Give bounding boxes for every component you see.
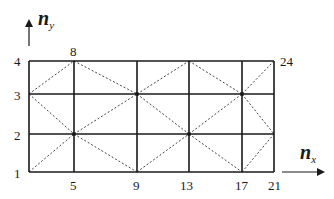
diagonal-line xyxy=(242,94,274,134)
node-label: 13 xyxy=(180,179,193,192)
diagonal-line xyxy=(29,94,74,134)
node-label: 24 xyxy=(280,55,293,68)
diagonal-line xyxy=(189,134,242,172)
diagonal-line xyxy=(137,94,189,134)
diagonal-line xyxy=(137,134,189,172)
node-label: 3 xyxy=(14,89,21,102)
diagonal-line xyxy=(189,94,242,134)
y-axis-arrowhead-icon xyxy=(25,19,33,27)
x-axis-label: nx xyxy=(300,142,316,169)
diagonal-line xyxy=(29,61,74,94)
diagonal-line xyxy=(242,134,274,172)
diagonal-line xyxy=(242,61,274,94)
node-label: 2 xyxy=(14,129,21,142)
node-label: 1 xyxy=(14,167,21,180)
node-label: 9 xyxy=(133,179,140,192)
diagonal-line xyxy=(189,61,242,94)
mesh-diagram: ny nx 123458913172124 xyxy=(0,0,334,199)
x-axis-arrowhead-icon xyxy=(317,168,325,176)
mesh-node xyxy=(72,132,76,136)
y-axis-label: ny xyxy=(38,8,54,35)
node-label: 5 xyxy=(70,179,77,192)
diagonal-line xyxy=(74,94,137,134)
node-label: 8 xyxy=(70,45,77,58)
diagonal-line xyxy=(29,134,74,172)
diagonal-line xyxy=(74,134,137,172)
node-label: 4 xyxy=(14,55,21,68)
mesh-node xyxy=(187,132,191,136)
mesh-node xyxy=(135,92,139,96)
mesh-node xyxy=(240,92,244,96)
node-label: 17 xyxy=(235,179,248,192)
node-label: 21 xyxy=(268,179,281,192)
diagonal-line xyxy=(74,61,137,94)
diagonal-line xyxy=(137,61,189,94)
